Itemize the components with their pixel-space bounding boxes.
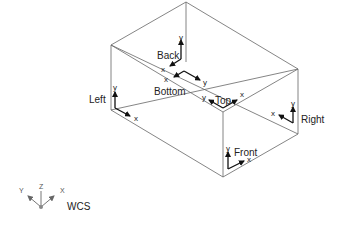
wcs-z-label: Z [39, 183, 44, 190]
wcs-icon: Z Y X WCS [19, 183, 91, 212]
bottom-x-label: x [164, 75, 168, 84]
wcs-label: WCS [67, 201, 91, 212]
top-x-label: x [240, 90, 244, 99]
face-label-right: Right [301, 114, 325, 125]
ucs-front: y x Front [226, 144, 258, 169]
front-y-label: y [226, 144, 230, 153]
face-label-front: Front [234, 147, 258, 158]
ucs-box-diagram: y x Back x y Bottom y x Top y x Left y x… [0, 0, 337, 228]
wcs-y-label: Y [19, 187, 24, 194]
ucs-bottom: x y Bottom [154, 71, 207, 97]
face-label-left: Left [89, 94, 106, 105]
back-x-label: x [161, 65, 165, 74]
back-y-label: y [179, 33, 183, 42]
left-x-label: x [134, 114, 138, 123]
face-label-back: Back [157, 50, 180, 61]
top-y-label: y [202, 93, 206, 102]
face-label-bottom: Bottom [154, 86, 186, 97]
wcs-x-label: X [60, 187, 65, 194]
face-label-top: Top [215, 95, 232, 106]
right-x-label: x [271, 109, 275, 118]
bottom-y-label: y [203, 78, 207, 87]
left-y-label: y [113, 83, 117, 92]
ucs-left: y x Left [89, 83, 138, 123]
right-y-label: y [291, 99, 295, 108]
box-outline [111, 2, 298, 177]
ucs-back: y x Back [157, 33, 183, 74]
